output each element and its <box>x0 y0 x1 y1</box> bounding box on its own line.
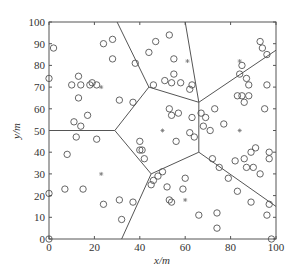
sensor-node-marker <box>207 127 213 133</box>
cluster-head-star-icon <box>238 129 242 133</box>
sensor-node-marker <box>243 75 249 81</box>
sensor-node-marker <box>266 156 272 162</box>
sensor-node-marker <box>250 164 256 170</box>
sensor-node-marker <box>175 110 181 116</box>
sensor-node-marker <box>159 169 165 175</box>
sensor-node-marker <box>191 134 197 140</box>
sensor-node-marker <box>62 186 68 192</box>
x-tick-label: 40 <box>134 241 146 253</box>
sensor-node-marker <box>78 82 84 88</box>
sensor-node-marker <box>109 36 115 42</box>
sensor-node-marker <box>100 41 106 47</box>
sensor-node-marker <box>252 145 258 151</box>
sensor-node-marker <box>150 82 156 88</box>
sensor-nodes <box>46 32 275 242</box>
voronoi-edge <box>115 131 151 174</box>
sensor-node-marker <box>50 45 56 51</box>
sensor-node-marker <box>93 136 99 142</box>
sensor-node-marker <box>137 138 143 144</box>
sensor-node-marker <box>257 171 263 177</box>
sensor-node-marker <box>196 212 202 218</box>
sensor-node-marker <box>248 199 254 205</box>
sensor-node-marker <box>166 106 172 112</box>
cluster-head-star-icon <box>183 198 187 202</box>
sensor-node-marker <box>200 123 206 129</box>
sensor-node-marker <box>141 156 147 162</box>
x-tick-label: 100 <box>268 241 285 253</box>
voronoi-edge <box>151 152 199 174</box>
sensor-node-marker <box>232 158 238 164</box>
sensor-node-marker <box>116 197 122 203</box>
y-tick-label: 50 <box>34 125 46 137</box>
sensor-node-marker <box>171 71 177 77</box>
sensor-node-marker <box>164 184 170 190</box>
sensor-node-marker <box>243 164 249 170</box>
sensor-node-marker <box>241 99 247 105</box>
x-tick-label: 80 <box>225 241 237 253</box>
sensor-node-marker <box>162 77 168 83</box>
sensor-node-marker <box>173 138 179 144</box>
voronoi-edge <box>115 87 149 130</box>
sensor-node-marker <box>177 80 183 86</box>
sensor-node-marker <box>264 212 270 218</box>
sensor-node-marker <box>239 93 245 99</box>
cluster-heads <box>99 59 241 202</box>
sensor-node-marker <box>241 156 247 162</box>
sensor-node-marker <box>171 56 177 62</box>
y-tick-label: 100 <box>29 16 46 28</box>
sensor-node-marker <box>80 186 86 192</box>
sensor-node-marker <box>73 134 79 140</box>
sensor-node-marker <box>234 188 240 194</box>
sensor-node-marker <box>118 216 124 222</box>
sensor-node-marker <box>180 186 186 192</box>
y-axis-label: y/m <box>10 123 22 140</box>
cluster-head-star-icon <box>99 85 103 89</box>
y-tick-label: 90 <box>34 38 46 50</box>
sensor-node-marker <box>236 71 242 77</box>
cluster-head-star-icon <box>161 129 165 133</box>
cluster-head-star-icon <box>99 172 103 176</box>
y-tick-label: 0 <box>40 233 46 245</box>
y-tick-label: 40 <box>34 146 46 158</box>
y-tick-label: 70 <box>34 81 46 93</box>
sensor-node-marker <box>168 112 174 118</box>
sensor-node-marker <box>266 149 272 155</box>
voronoi-edge <box>199 152 276 206</box>
sensor-node-marker <box>221 121 227 127</box>
sensor-node-marker <box>189 114 195 120</box>
sensor-node-marker <box>246 93 252 99</box>
x-tick-label: 0 <box>46 241 52 253</box>
voronoi-edge <box>122 174 152 239</box>
x-tick-label: 20 <box>89 241 101 253</box>
sensor-node-marker <box>78 123 84 129</box>
sensor-node-marker <box>257 38 263 44</box>
sensor-node-marker <box>130 199 136 205</box>
sensor-node-marker <box>264 82 270 88</box>
sensor-node-marker <box>261 106 267 112</box>
sensor-node-marker <box>166 32 172 38</box>
sensor-node-marker <box>202 114 208 120</box>
sensor-node-marker <box>209 156 215 162</box>
sensor-node-marker <box>182 175 188 181</box>
y-tick-label: 20 <box>34 190 46 202</box>
sensor-node-marker <box>100 201 106 207</box>
voronoi-edge <box>149 87 199 102</box>
y-tick-label: 10 <box>34 211 46 223</box>
sensor-node-marker <box>214 225 220 231</box>
y-tick-label: 60 <box>34 103 46 115</box>
sensor-node-marker <box>69 82 75 88</box>
sensor-node-marker <box>146 49 152 55</box>
sensor-node-marker <box>75 73 81 79</box>
sensor-node-marker <box>225 175 231 181</box>
sensor-node-marker <box>75 95 81 101</box>
cluster-head-star-icon <box>185 59 189 63</box>
sensor-node-marker <box>214 210 220 216</box>
y-tick-label: 80 <box>34 59 46 71</box>
voronoi-chart: 020406080100 0102030405060708090100 x/m … <box>0 0 300 275</box>
sensor-node-marker <box>130 99 136 105</box>
sensor-node-marker <box>168 80 174 86</box>
sensor-node-marker <box>84 112 90 118</box>
sensor-node-marker <box>216 164 222 170</box>
sensor-node-marker <box>259 45 265 51</box>
sensor-node-marker <box>212 106 218 112</box>
